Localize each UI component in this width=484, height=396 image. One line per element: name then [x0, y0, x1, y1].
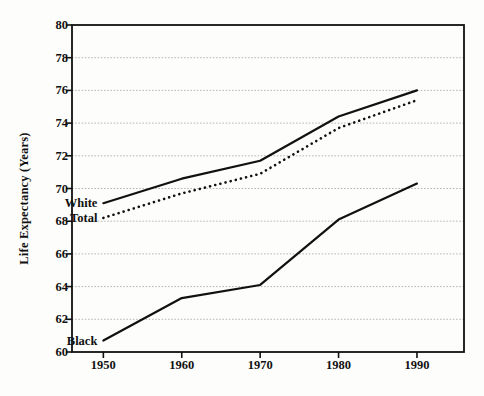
series-label-black: Black: [67, 333, 98, 348]
series-line-white: [103, 90, 417, 203]
x-tick-label: 1980: [326, 358, 351, 373]
x-tick-label: 1960: [169, 358, 194, 373]
series-line-total: [103, 100, 417, 218]
series-line-black: [103, 184, 417, 341]
series-label-total: Total: [70, 210, 97, 225]
x-axis-tick-labels: 19501960197019801990: [0, 358, 484, 382]
data-series: [103, 90, 417, 340]
chart-figure: Life Expectancy (Years) 6062646668707274…: [0, 0, 484, 396]
series-label-white: White: [65, 196, 98, 211]
x-tick-label: 1970: [248, 358, 273, 373]
x-tick-label: 1950: [91, 358, 116, 373]
axis-ticks: [66, 25, 417, 358]
x-tick-label: 1990: [404, 358, 429, 373]
